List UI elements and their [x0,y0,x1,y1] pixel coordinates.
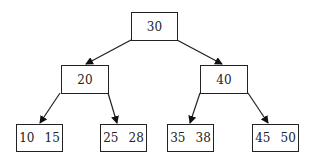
node-key: 50 [281,131,296,145]
node-key: 10 [19,131,34,145]
edge-40-leaf3 [190,93,200,123]
node-key: 20 [77,73,92,87]
leaf-1: 10 15 [16,124,63,152]
edge-20-leaf1 [40,93,60,123]
node-root: 30 [131,12,178,41]
leaf-2: 25 28 [100,124,147,152]
node-key: 15 [45,131,60,145]
node-key: 38 [196,131,211,145]
node-right: 40 [200,65,248,94]
node-key: 25 [103,131,118,145]
node-left: 20 [61,65,109,94]
edge-30-40 [177,40,222,64]
node-key: 40 [216,73,231,87]
node-key: 45 [255,131,270,145]
edge-20-leaf2 [108,93,117,123]
edge-30-20 [86,40,131,64]
edge-40-leaf4 [248,93,268,123]
leaf-3: 35 38 [167,124,214,152]
node-key: 28 [129,131,144,145]
node-key: 30 [147,20,162,34]
node-key: 35 [170,131,185,145]
leaf-4: 45 50 [252,124,299,152]
